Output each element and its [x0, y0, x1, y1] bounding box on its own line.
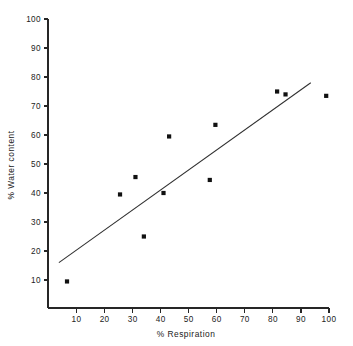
x-tick-label-90: 90 — [296, 315, 306, 324]
x-tick-label-20: 20 — [100, 315, 110, 324]
data-point-7 — [213, 123, 217, 127]
plot-canvas: 102030405060708090100 102030405060708090… — [0, 0, 353, 346]
data-point-8 — [275, 89, 279, 93]
x-tick-label-50: 50 — [184, 315, 194, 324]
y-axis-title: % Water content — [6, 130, 16, 199]
y-tick-label-70: 70 — [31, 102, 41, 111]
y-tick-label-20: 20 — [31, 247, 41, 256]
y-tick-label-40: 40 — [31, 189, 41, 198]
x-tick-label-80: 80 — [268, 315, 278, 324]
y-tick-label-50: 50 — [31, 160, 41, 169]
trend-line-group — [59, 83, 311, 263]
x-tick-label-100: 100 — [322, 315, 337, 324]
data-point-4 — [161, 191, 165, 195]
scatter-plot-figure: 102030405060708090100 102030405060708090… — [0, 0, 353, 346]
y-axis-ticks: 102030405060708090100 — [26, 15, 48, 285]
data-point-10 — [324, 94, 328, 98]
x-tick-label-60: 60 — [212, 315, 222, 324]
x-axis-ticks: 102030405060708090100 — [72, 308, 337, 324]
data-points-group — [65, 89, 328, 283]
data-point-9 — [283, 92, 287, 96]
y-tick-label-10: 10 — [31, 276, 41, 285]
data-point-5 — [167, 134, 171, 138]
y-tick-label-80: 80 — [31, 73, 41, 82]
data-point-1 — [118, 192, 122, 196]
data-point-2 — [133, 175, 137, 179]
data-point-0 — [65, 279, 69, 283]
data-point-3 — [142, 234, 146, 238]
regression-line — [59, 83, 311, 263]
x-tick-label-70: 70 — [240, 315, 250, 324]
x-tick-label-10: 10 — [72, 315, 82, 324]
data-point-6 — [208, 178, 212, 182]
x-tick-label-30: 30 — [128, 315, 138, 324]
y-tick-label-60: 60 — [31, 131, 41, 140]
y-tick-label-100: 100 — [26, 15, 41, 24]
x-tick-label-40: 40 — [156, 315, 166, 324]
y-tick-label-90: 90 — [31, 44, 41, 53]
x-axis-title: % Respiration — [157, 329, 216, 339]
axes-group — [48, 19, 329, 308]
y-tick-label-30: 30 — [31, 218, 41, 227]
